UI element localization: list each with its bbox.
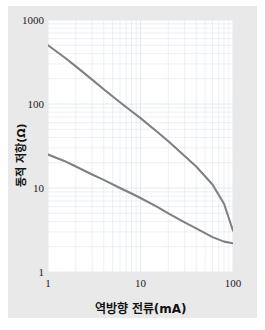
x-axis-label: 역방향 전류(mA): [48, 299, 233, 316]
curve-lower-curve: [48, 155, 233, 244]
x-tick-label: 10: [118, 278, 164, 289]
x-tick-label: 100: [210, 278, 256, 289]
x-axis-ticks: 110100: [0, 278, 265, 294]
y-tick-label: 1000: [0, 15, 44, 26]
y-tick-label: 100: [0, 99, 44, 110]
y-axis-label: 동적 저항(Ω): [12, 123, 28, 186]
curve-upper-curve: [48, 45, 233, 230]
y-tick-label: 1: [0, 267, 44, 278]
plot-area: [48, 20, 233, 272]
chart-figure: 1101001000 110100 역방향 전류(mA) 동적 저항(Ω): [0, 0, 265, 330]
x-tick-label: 1: [25, 278, 71, 289]
y-axis-label-wrapper: 동적 저항(Ω): [10, 110, 30, 200]
data-curves: [48, 20, 233, 272]
